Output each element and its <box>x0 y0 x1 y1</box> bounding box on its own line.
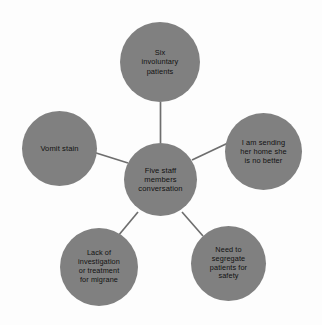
node-vomit-stain[interactable]: Vomit stain <box>22 111 97 186</box>
node-label-i-am-sending-her-home-she-is-no-better: I am sending her home she is no better <box>234 138 292 165</box>
node-label-need-to-segregate-patients-for-safety: Need to segregate patients for safety <box>204 246 253 282</box>
node-label-five-staff-members-conversation: Five staff members conversation <box>132 166 188 194</box>
node-six-involuntary-patients[interactable]: Six involuntary patients <box>120 22 200 102</box>
node-label-lack-of-investigation-or-treatment-for-migrane: Lack of investigation or treatment for m… <box>72 249 126 285</box>
connector-center-to-bottom-left <box>118 212 138 236</box>
connector-center-to-bottom-right <box>182 212 203 236</box>
node-need-to-segregate-patients-for-safety[interactable]: Need to segregate patients for safety <box>191 226 266 301</box>
connector-center-to-right <box>192 143 228 160</box>
node-lack-of-investigation-or-treatment-for-migrane[interactable]: Lack of investigation or treatment for m… <box>60 228 138 306</box>
node-label-six-involuntary-patients: Six involuntary patients <box>136 48 185 75</box>
node-label-vomit-stain: Vomit stain <box>34 144 84 153</box>
node-i-am-sending-her-home-she-is-no-better[interactable]: I am sending her home she is no better <box>225 113 302 190</box>
connector-center-to-left <box>93 152 128 163</box>
node-five-staff-members-conversation[interactable]: Five staff members conversation <box>124 143 197 216</box>
diagram-canvas: Six involuntary patients I am sending he… <box>0 0 322 325</box>
